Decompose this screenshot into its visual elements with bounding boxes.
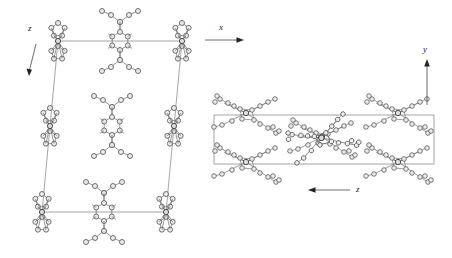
axis-label-x: x [219, 23, 223, 32]
ferrocene-molecule [41, 106, 59, 147]
molecular-cluster [364, 143, 434, 185]
axis-label-z-right: z [356, 185, 360, 194]
molecular-cluster [364, 94, 434, 136]
axis-arrow-z-left [27, 44, 37, 76]
left-packing-panel [0, 0, 452, 258]
aromatic-ligand [92, 94, 133, 159]
figure-root: z x y z [0, 0, 452, 258]
axis-label-y: y [423, 45, 427, 54]
axis-arrow-z-right [308, 187, 350, 193]
axis-label-z-left: z [28, 24, 32, 33]
molecular-cluster [212, 143, 282, 185]
axis-arrow-x [205, 37, 244, 43]
ferrocene-molecule [165, 106, 183, 147]
molecular-cluster [212, 94, 282, 136]
molecular-cluster [282, 107, 362, 172]
